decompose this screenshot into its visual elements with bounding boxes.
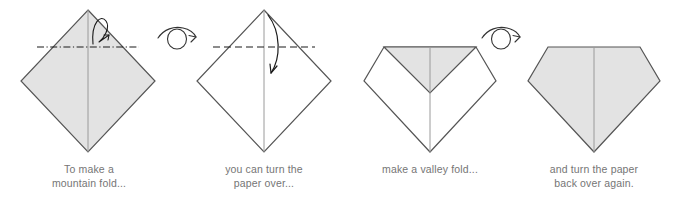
panel-2-caption: you can turn the paper over... xyxy=(180,163,348,190)
panel-4-figure xyxy=(512,0,676,160)
panel-step-2: you can turn the paper over... xyxy=(180,0,348,207)
panel-3-caption: make a valley fold... xyxy=(350,163,510,177)
panel-4-caption: and turn the paper back over again. xyxy=(512,163,676,190)
panel-2-figure xyxy=(180,0,348,160)
panel-step-4: and turn the paper back over again. xyxy=(512,0,676,207)
turn-over-loop xyxy=(492,29,511,49)
panel-1-caption: To make a mountain fold... xyxy=(0,163,178,190)
origami-fold-sequence: To make a mountain fold... you can turn … xyxy=(0,0,676,207)
